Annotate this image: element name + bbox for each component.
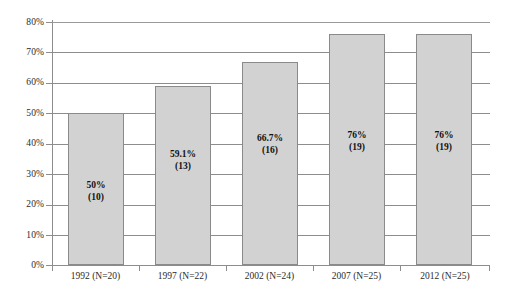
bar-label-2007: 76% (19) xyxy=(330,130,384,153)
y-tick-label-10: 10% xyxy=(2,230,44,240)
bar-label-2007-percent: 76% xyxy=(330,130,384,142)
x-tick-label-2012: 2012 (N=25) xyxy=(400,270,490,282)
bar-label-2002-percent: 66.7% xyxy=(243,133,297,145)
bar-label-2002-count: (16) xyxy=(243,145,297,157)
plot-area: 50% (10) 59.1% (13) 66.7% (16) 76% (19) xyxy=(52,22,490,265)
x-tick-label-1992: 1992 (N=20) xyxy=(52,270,139,282)
y-tick-label-60: 60% xyxy=(2,77,44,87)
bar-1992[interactable]: 50% (10) xyxy=(68,113,124,265)
bar-label-1997-count: (13) xyxy=(156,161,210,173)
bar-label-2002: 66.7% (16) xyxy=(243,133,297,156)
y-axis-tick-labels: 80% 70% 60% 50% 40% 30% 20% 10% 0% xyxy=(0,0,44,295)
y-tick-label-40: 40% xyxy=(2,138,44,148)
x-axis-tick-labels: 1992 (N=20) 1997 (N=22) 2002 (N=24) 2007… xyxy=(52,268,490,292)
x-tick-label-1997: 1997 (N=22) xyxy=(139,270,226,282)
bar-2007[interactable]: 76% (19) xyxy=(329,34,385,265)
bar-label-2012: 76% (19) xyxy=(417,130,471,153)
y-tick-label-50: 50% xyxy=(2,108,44,118)
x-tick-label-2007: 2007 (N=25) xyxy=(313,270,400,282)
bar-label-2007-count: (19) xyxy=(330,142,384,154)
bar-label-1997: 59.1% (13) xyxy=(156,149,210,172)
y-tick-label-80: 80% xyxy=(2,17,44,27)
bar-label-2012-percent: 76% xyxy=(417,130,471,142)
bar-label-1997-percent: 59.1% xyxy=(156,149,210,161)
bar-2002[interactable]: 66.7% (16) xyxy=(242,62,298,265)
gridline-80 xyxy=(52,22,490,23)
bar-label-1992-count: (10) xyxy=(69,192,123,204)
y-tick-label-30: 30% xyxy=(2,169,44,179)
bar-label-2012-count: (19) xyxy=(417,142,471,154)
bar-2012[interactable]: 76% (19) xyxy=(416,34,472,265)
x-axis-line xyxy=(46,265,490,266)
bar-1997[interactable]: 59.1% (13) xyxy=(155,86,211,265)
y-tick-label-20: 20% xyxy=(2,199,44,209)
y-tick-label-0: 0% xyxy=(2,260,44,270)
x-tick-label-2002: 2002 (N=24) xyxy=(226,270,313,282)
bar-label-1992-percent: 50% xyxy=(69,180,123,192)
bar-chart: 80% 70% 60% 50% 40% 30% 20% 10% 0% 50% xyxy=(0,0,512,295)
bar-label-1992: 50% (10) xyxy=(69,180,123,203)
y-tick-label-70: 70% xyxy=(2,47,44,57)
